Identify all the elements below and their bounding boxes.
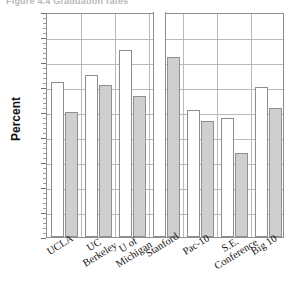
bar-pac-10-grey xyxy=(201,121,214,237)
bar-stanford-white xyxy=(153,12,166,237)
bar-s-e-conference-white xyxy=(221,118,234,237)
bar-u-of-michigan-grey xyxy=(133,96,146,237)
vgridline-4 xyxy=(183,14,184,237)
bar-stanford-grey xyxy=(167,57,180,237)
bar-ucla-grey xyxy=(65,112,78,237)
bar-big-10-white xyxy=(255,87,268,237)
vgridline-6 xyxy=(251,14,252,237)
vgridline-2 xyxy=(115,14,116,237)
vgridline-1 xyxy=(81,14,82,237)
figure-root: Figure 4.4 Graduation rates Percent 0102… xyxy=(0,0,297,302)
y-axis-title: Percent xyxy=(9,97,23,141)
y-tick-0 xyxy=(41,238,46,239)
bar-s-e-conference-grey xyxy=(235,153,248,237)
figure-caption: Figure 4.4 Graduation rates xyxy=(6,0,128,6)
vgridline-3 xyxy=(149,14,150,237)
bar-u-of-michigan-white xyxy=(119,50,132,238)
plot-area xyxy=(46,13,284,238)
vgridline-5 xyxy=(217,14,218,237)
bar-big-10-grey xyxy=(269,108,282,237)
bar-pac-10-white xyxy=(187,110,200,238)
bar-ucla-white xyxy=(51,82,64,237)
x-axis-labels: UCLAUCBerkeleyU ofMichiganStanfordPac-10… xyxy=(46,240,284,302)
bar-uc-berkeley-grey xyxy=(99,85,112,238)
bar-uc-berkeley-white xyxy=(85,75,98,238)
